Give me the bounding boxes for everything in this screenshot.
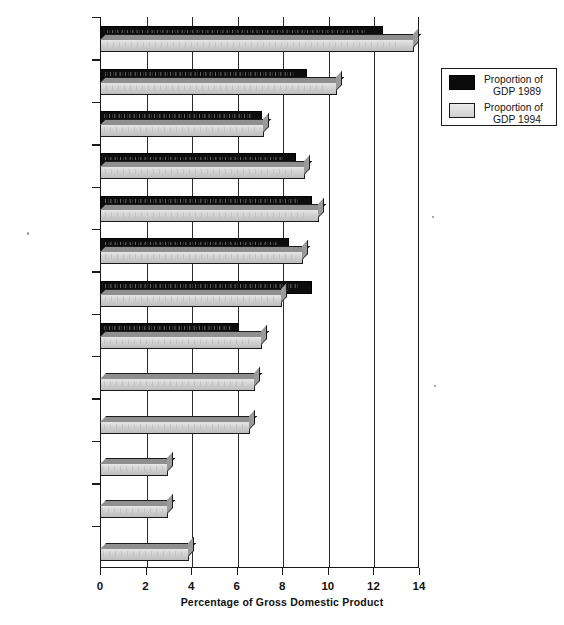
x-axis-tick [419, 568, 420, 575]
legend-label-1994-line1: Proportion of [484, 102, 543, 113]
bar-top-face [100, 246, 310, 252]
bar-top-face [100, 119, 271, 125]
y-axis-tick [92, 314, 101, 315]
x-axis-tick [237, 568, 238, 575]
bar-china-1994 [100, 505, 168, 518]
x-axis-tick-label: 6 [234, 580, 240, 592]
legend-item-1989: Proportion of GDP 1989 [449, 74, 556, 98]
bar-top-face [100, 77, 344, 83]
bar-face [100, 378, 255, 391]
bar-hungary-1994 [100, 421, 250, 434]
x-axis-tick [191, 568, 192, 575]
x-axis-tick-label: 10 [321, 580, 334, 592]
scan-speck [434, 385, 436, 387]
bar-face [100, 39, 414, 52]
bar-top-face [100, 543, 196, 549]
y-axis-tick [92, 526, 101, 527]
bar-germany-1994 [100, 166, 305, 179]
bar-top-face [100, 331, 269, 337]
bar-france-1994 [100, 209, 319, 222]
y-axis-tick [92, 398, 101, 399]
y-axis-tick [92, 102, 101, 103]
bar-the-netherlands-1994 [100, 251, 303, 264]
x-axis-tick-label: 14 [413, 580, 426, 592]
x-axis-tick [282, 568, 283, 575]
legend-label-1994: Proportion of GDP 1994 [484, 102, 543, 126]
bar-face [100, 505, 168, 518]
legend-item-1994: Proportion of GDP 1994 [449, 102, 556, 126]
scan-speck [432, 216, 434, 218]
bar-top-face [100, 500, 176, 506]
bar-canada-1994 [100, 82, 337, 95]
x-axis-tick-label: 0 [97, 580, 103, 592]
x-axis-tick [146, 568, 147, 575]
bar-face [100, 463, 168, 476]
bar-face [100, 548, 189, 561]
legend-label-1989-line2: GDP 1989 [484, 86, 543, 98]
x-axis-tick-label: 2 [142, 580, 148, 592]
bar-face [100, 209, 319, 222]
y-axis-tick [92, 483, 101, 484]
x-axis-tick-label: 8 [279, 580, 285, 592]
bar-face [100, 166, 305, 179]
x-axis-tick [100, 568, 101, 575]
bar-top-face [100, 458, 176, 464]
x-axis-tick-label: 12 [367, 580, 380, 592]
gridline [329, 17, 330, 567]
bar-top-face [100, 34, 422, 40]
bar-top-face [100, 204, 326, 210]
bar-top-face [100, 161, 312, 167]
gridline [374, 17, 375, 567]
y-axis-tick [92, 187, 101, 188]
legend-label-1989: Proportion of GDP 1989 [484, 74, 543, 98]
x-axis-tick [373, 568, 374, 575]
y-axis-tick [92, 271, 101, 272]
bar-face [100, 251, 303, 264]
bar-top-face [100, 416, 258, 422]
bar-mexico-1994 [100, 548, 189, 561]
y-axis-tick [92, 144, 101, 145]
x-axis-tick-label: 4 [188, 580, 194, 592]
y-axis-tick [92, 441, 101, 442]
bar-face [100, 124, 264, 137]
scan-speck [27, 232, 29, 235]
x-axis-title: Percentage of Gross Domestic Product [0, 596, 564, 608]
legend-label-1989-line1: Proportion of [484, 74, 543, 85]
bar-chart: United StatesCanadaJapanGermanyFranceThe… [0, 0, 564, 625]
bar-czech-republic-1994 [100, 378, 255, 391]
bar-top-face [100, 373, 262, 379]
bar-face [100, 421, 250, 434]
bar-sweden-1994 [100, 294, 282, 307]
chart-legend: Proportion of GDP 1989 Proportion of GDP… [441, 68, 557, 126]
bar-face [100, 82, 337, 95]
legend-swatch-dark-icon [449, 75, 475, 90]
legend-swatch-light-icon [449, 103, 475, 118]
bar-united-states-1994 [100, 39, 414, 52]
bar-russia-1994 [100, 463, 168, 476]
bar-face [100, 294, 282, 307]
bar-japan-1994 [100, 124, 264, 137]
y-axis-tick [92, 229, 101, 230]
y-axis-tick [92, 356, 101, 357]
y-axis-tick [92, 17, 101, 18]
legend-label-1994-line2: GDP 1994 [484, 114, 543, 126]
bar-united-kingdom-1994 [100, 336, 262, 349]
x-axis-tick [328, 568, 329, 575]
bar-top-face [100, 289, 289, 295]
y-axis-tick [92, 59, 101, 60]
bar-face [100, 336, 262, 349]
